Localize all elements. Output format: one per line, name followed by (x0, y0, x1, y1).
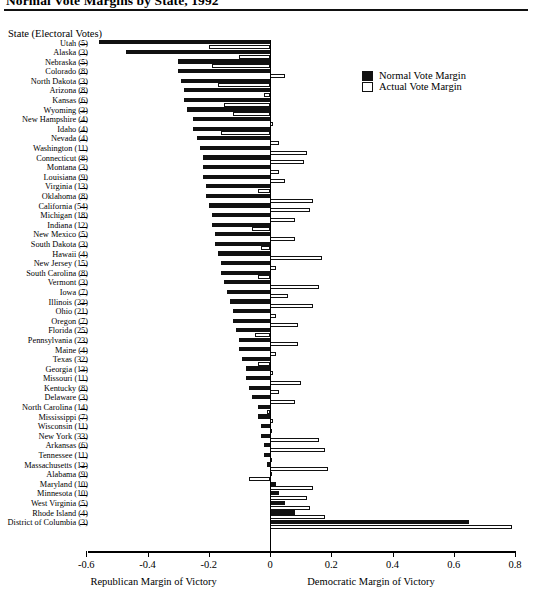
x-axis-title-right: Democratic Margin of Victory (307, 576, 435, 587)
bar-normal-vote-margin (212, 213, 270, 217)
state-label: New Hampshire (4) (0, 115, 88, 125)
bar-normal-vote-margin (215, 232, 270, 236)
x-tick-label: 0.2 (325, 559, 338, 570)
y-tick-mark (80, 332, 87, 333)
bar-normal-vote-margin (212, 223, 270, 227)
y-tick-mark (80, 294, 87, 295)
bar-actual-vote-margin (258, 189, 270, 193)
state-label: Florida (25) (0, 326, 88, 336)
y-tick-mark (80, 198, 87, 199)
bar-group (88, 424, 518, 434)
zero-axis-line (270, 40, 271, 552)
state-label: Wisconsin (11) (0, 422, 88, 432)
bar-group (88, 318, 518, 328)
y-tick-mark (80, 351, 87, 352)
y-tick-mark (80, 524, 87, 525)
y-tick-mark (80, 255, 87, 256)
bar-normal-vote-margin (270, 501, 285, 505)
legend-label: Normal Vote Margin (379, 70, 466, 81)
x-axis-line (88, 551, 515, 553)
state-label: Hawaii (4) (0, 250, 88, 260)
x-tick-label: 0.8 (508, 559, 521, 570)
state-label: Nebraska (5) (0, 58, 88, 68)
bar-actual-vote-margin (270, 381, 301, 385)
bar-group (88, 501, 518, 511)
bar-actual-vote-margin (270, 400, 295, 404)
x-tick-mark (270, 551, 271, 557)
bar-group (88, 472, 518, 482)
y-tick-mark (80, 380, 87, 381)
bar-group (88, 366, 518, 376)
bar-group (88, 261, 518, 271)
state-label: Oklahoma (8) (0, 192, 88, 202)
bar-group (88, 40, 518, 50)
bar-group (88, 491, 518, 501)
bar-group (88, 462, 518, 472)
y-tick-mark (80, 111, 87, 112)
title-divider (4, 9, 528, 11)
state-label: Vermont (3) (0, 278, 88, 288)
state-label: California (54) (0, 202, 88, 212)
state-label: Arkansas (6) (0, 441, 88, 451)
y-tick-mark (80, 284, 87, 285)
bar-group (88, 433, 518, 443)
bar-normal-vote-margin (178, 69, 270, 73)
bar-normal-vote-margin (270, 520, 469, 524)
y-tick-mark (80, 466, 87, 467)
y-tick-mark (80, 63, 87, 64)
x-tick-mark (148, 551, 149, 557)
y-axis-header: State (Electoral Votes) (8, 28, 102, 39)
y-tick-mark (80, 303, 87, 304)
state-label: South Dakota (3) (0, 240, 88, 250)
x-tick-label: 0 (267, 559, 272, 570)
x-tick-mark (393, 551, 394, 557)
bar-normal-vote-margin (206, 184, 270, 188)
y-tick-mark (80, 236, 87, 237)
legend-label: Actual Vote Margin (379, 81, 462, 92)
bar-group (88, 395, 518, 405)
bar-actual-vote-margin (258, 362, 270, 366)
state-label: Mississippi (7) (0, 413, 88, 423)
bar-group (88, 136, 518, 146)
state-label: Texas (32) (0, 355, 88, 365)
bar-normal-vote-margin (99, 40, 271, 44)
bar-actual-vote-margin (270, 486, 313, 490)
bar-group (88, 481, 518, 491)
bar-normal-vote-margin (203, 165, 270, 169)
y-tick-mark (80, 73, 87, 74)
state-label: North Carolina (14) (0, 403, 88, 413)
state-label: Michigan (18) (0, 211, 88, 221)
chart-legend: Normal Vote MarginActual Vote Margin (362, 70, 466, 92)
bar-actual-vote-margin (252, 227, 270, 231)
y-tick-mark (80, 409, 87, 410)
y-tick-mark (80, 275, 87, 276)
state-label: North Dakota (3) (0, 77, 88, 87)
bar-actual-vote-margin (270, 506, 310, 510)
bar-normal-vote-margin (218, 251, 270, 255)
state-label: Maine (4) (0, 346, 88, 356)
bar-normal-vote-margin (215, 242, 270, 246)
bar-group (88, 328, 518, 338)
bar-group (88, 414, 518, 424)
bar-normal-vote-margin (246, 366, 271, 370)
state-label: Virginia (13) (0, 182, 88, 192)
bar-group (88, 126, 518, 136)
y-tick-mark (80, 428, 87, 429)
bar-actual-vote-margin (258, 275, 270, 279)
y-tick-mark (80, 399, 87, 400)
bar-normal-vote-margin (270, 510, 295, 514)
state-label: Missouri (11) (0, 374, 88, 384)
x-tick-mark (209, 551, 210, 557)
bar-normal-vote-margin (209, 203, 270, 207)
state-label: Pennsylvania (23) (0, 336, 88, 346)
bar-group (88, 174, 518, 184)
y-tick-mark (80, 140, 87, 141)
y-tick-mark (80, 418, 87, 419)
state-label: Indiana (12) (0, 221, 88, 231)
state-label: Utah (5) (0, 39, 88, 49)
bar-actual-vote-margin (212, 64, 270, 68)
bar-actual-vote-margin (249, 477, 270, 481)
y-tick-mark (80, 54, 87, 55)
bar-group (88, 385, 518, 395)
state-label: Iowa (7) (0, 288, 88, 298)
